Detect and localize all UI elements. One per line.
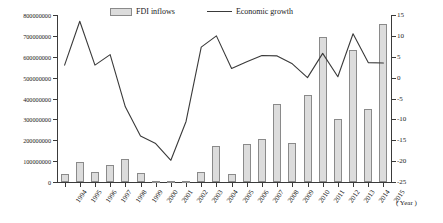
x-axis-tick: [308, 183, 309, 187]
chart-container: FDI inflows Economic growth 010000000020…: [0, 0, 443, 223]
x-axis: [57, 182, 392, 183]
legend-item-economic-growth: Economic growth: [207, 7, 293, 16]
x-axis-tick-label: 2006: [257, 189, 271, 204]
x-axis-tick-label: 2008: [287, 189, 301, 204]
bar-fdi-inflows: [91, 172, 99, 182]
x-axis-tick: [80, 183, 81, 187]
y-axis-right-tick-label: 0: [397, 74, 401, 81]
y-axis-right-tick-label: -15: [397, 137, 406, 144]
x-axis-tick-label: 2003: [211, 189, 225, 204]
x-axis-tick: [186, 183, 187, 187]
x-axis-tick: [353, 183, 354, 187]
x-axis-tick: [201, 183, 202, 187]
bar-fdi-inflows: [319, 37, 327, 182]
y-axis-right-tick: [392, 119, 396, 120]
x-axis-tick: [292, 183, 293, 187]
bar-fdi-inflows: [137, 173, 145, 182]
x-axis-tick-label: 1994: [75, 189, 89, 204]
y-axis-left-tick-label: 500000000: [23, 74, 51, 81]
x-axis-tick: [232, 183, 233, 187]
bar-fdi-inflows: [364, 109, 372, 182]
y-axis-left-tick-label: 300000000: [23, 116, 51, 123]
y-axis-right-tick: [392, 182, 396, 183]
bar-fdi-inflows: [349, 50, 357, 182]
legend-line-swatch: [207, 11, 232, 12]
x-axis-tick-label: 1996: [105, 189, 119, 204]
x-axis-tick: [110, 183, 111, 187]
x-axis-tick-label: 1999: [150, 189, 164, 204]
y-axis-left-tick: [53, 182, 57, 183]
y-axis-right-tick: [392, 161, 396, 162]
bar-fdi-inflows: [243, 144, 251, 182]
bar-fdi-inflows: [304, 95, 312, 182]
y-axis-left-tick-label: 400000000: [23, 95, 51, 102]
x-axis-tick-label: 2013: [363, 189, 377, 204]
y-axis-right-tick-label: -10: [397, 116, 406, 123]
y-axis-right-tick-label: -25: [397, 179, 406, 186]
y-axis-left-tick: [53, 57, 57, 58]
x-axis-tick: [156, 183, 157, 187]
x-axis-tick: [171, 183, 172, 187]
x-axis-tick: [141, 183, 142, 187]
x-axis-tick-label: 1998: [135, 189, 149, 204]
y-axis-left-tick-label: 100000000: [23, 158, 51, 165]
y-axis-left-tick-label: 200000000: [23, 137, 51, 144]
x-axis-tick-label: 1995: [90, 189, 104, 204]
bar-fdi-inflows: [76, 162, 84, 182]
y-axis-left-tick-label: 800000000: [23, 12, 51, 19]
y-axis-right-tick: [392, 99, 396, 100]
x-axis-tick: [323, 183, 324, 187]
y-axis-left-tick: [53, 119, 57, 120]
x-axis-tick-label: 2005: [242, 189, 256, 204]
x-axis-tick-label: 2007: [272, 189, 286, 204]
x-axis-tick: [247, 183, 248, 187]
legend-bar-label: FDI inflows: [136, 7, 175, 16]
x-axis-tick-label: 2004: [226, 189, 240, 204]
bar-fdi-inflows: [334, 119, 342, 182]
y-axis-left-tick-label: 600000000: [23, 53, 51, 60]
line-series-layer: [0, 0, 443, 223]
x-axis-tick-label: 2010: [317, 189, 331, 204]
x-axis-tick: [368, 183, 369, 187]
y-axis-right-tick-label: 10: [397, 32, 404, 39]
x-axis-tick: [125, 183, 126, 187]
x-axis-tick-label: 2002: [196, 189, 210, 204]
bar-fdi-inflows: [288, 143, 296, 182]
y-axis-left-tick: [53, 15, 57, 16]
y-axis-left-tick-label: 0: [48, 179, 51, 186]
bar-fdi-inflows: [228, 174, 236, 182]
y-axis-right-tick: [392, 78, 396, 79]
x-axis-caption: ( Year ): [396, 199, 417, 207]
bar-fdi-inflows: [273, 104, 281, 182]
x-axis-tick: [277, 183, 278, 187]
x-axis-tick-label: 2000: [166, 189, 180, 204]
legend-line-label: Economic growth: [236, 7, 293, 16]
x-axis-tick: [262, 183, 263, 187]
y-axis-right-tick-label: -20: [397, 158, 406, 165]
x-axis-tick-label: 2001: [181, 189, 195, 204]
y-axis-right-tick-label: -5: [397, 95, 403, 102]
x-axis-tick-label: 2009: [302, 189, 316, 204]
bar-fdi-inflows: [61, 174, 69, 182]
legend-bar-swatch: [110, 8, 132, 16]
y-axis-left-tick: [53, 161, 57, 162]
x-axis-tick-label: 2014: [378, 189, 392, 204]
bar-fdi-inflows: [379, 24, 387, 182]
x-axis-tick: [65, 183, 66, 187]
x-axis-tick: [383, 183, 384, 187]
y-axis-right-tick: [392, 140, 396, 141]
y-axis-left-tick: [53, 99, 57, 100]
y-axis-left-tick: [53, 36, 57, 37]
bar-fdi-inflows: [121, 159, 129, 182]
bar-fdi-inflows: [106, 165, 114, 182]
bar-fdi-inflows: [212, 146, 220, 182]
x-axis-tick: [216, 183, 217, 187]
y-axis-right-tick: [392, 15, 396, 16]
x-axis-tick: [95, 183, 96, 187]
y-axis-right-tick-label: 15: [397, 12, 404, 19]
chart-legend: FDI inflows Economic growth: [110, 7, 293, 16]
x-axis-tick-label: 1997: [120, 189, 134, 204]
y-axis-left-tick: [53, 78, 57, 79]
x-axis-tick: [338, 183, 339, 187]
y-axis-right-tick-label: 5: [397, 53, 401, 60]
